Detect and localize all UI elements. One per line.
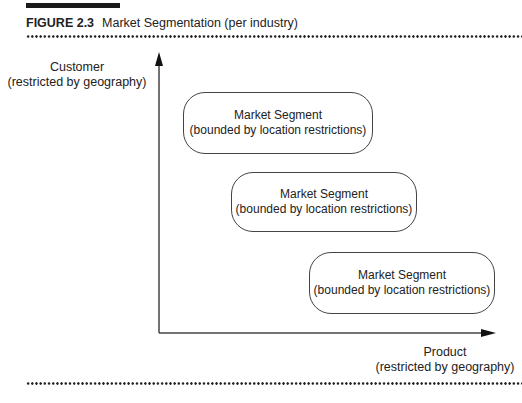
market-segment-1: Market Segment (bounded by location rest… [183,92,373,154]
market-segment-2: Market Segment (bounded by location rest… [231,172,417,232]
market-segment-3: Market Segment (bounded by location rest… [309,252,495,314]
y-axis-label: Customer (restricted by geography) [6,60,148,90]
x-axis-arrow-icon [481,329,496,337]
y-axis-title: Customer [6,60,148,75]
y-axis-subtitle: (restricted by geography) [6,75,148,90]
x-axis-subtitle: (restricted by geography) [370,360,520,375]
x-axis-label: Product (restricted by geography) [370,345,520,375]
x-axis-title: Product [370,345,520,360]
segment-subtitle: (bounded by location restrictions) [314,283,491,298]
segment-title: Market Segment [358,268,446,283]
y-axis-arrow-icon [155,52,163,66]
segment-subtitle: (bounded by location restrictions) [190,123,367,138]
segment-title: Market Segment [280,187,368,202]
segment-subtitle: (bounded by location restrictions) [236,202,413,217]
segment-title: Market Segment [234,108,322,123]
dotted-divider-bottom [26,382,522,385]
